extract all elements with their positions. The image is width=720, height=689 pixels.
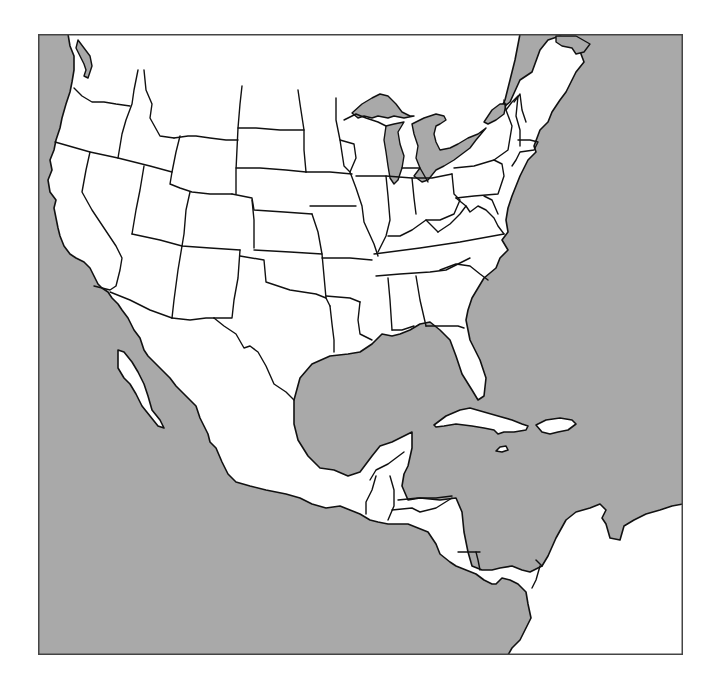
map-svg xyxy=(38,34,683,655)
outline-map xyxy=(38,34,683,655)
